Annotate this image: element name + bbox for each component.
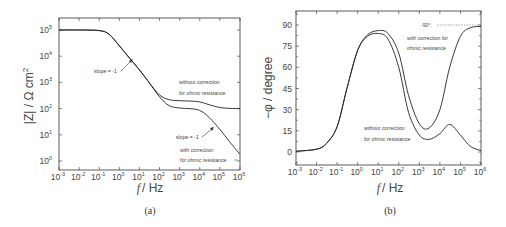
x-tick-label: 10-2 (71, 171, 85, 182)
annotation-with-b-2: ohmic resistance (407, 45, 446, 51)
annotation-without-2: for ohmic resistance (179, 90, 226, 96)
x-tick-label: 104 (193, 171, 206, 182)
x-tick-label: 105 (453, 166, 466, 177)
annotation-slope-1: slope = -1 (94, 68, 117, 74)
x-axis-label-b: f/ Hz (377, 181, 404, 195)
x-tick-label: 103 (412, 166, 425, 177)
chart-a: 105104103102101100 10-310-210-1100101102… (21, 18, 245, 217)
caption-a: (a) (144, 205, 155, 217)
annotation-with-1: with correction (180, 147, 214, 153)
y-tick-label: 45 (283, 84, 293, 94)
x-tick-label: 103 (172, 171, 185, 182)
caption-b: (b) (384, 205, 396, 217)
x-tick-label: 106 (233, 171, 246, 182)
x-axis-ticks-b: 10-310-210-1100101102103104105106 (288, 11, 486, 177)
x-tick-label: 10-3 (288, 166, 302, 177)
x-axis-label-a: f/ Hz (137, 181, 164, 195)
series-with-correction-b (296, 26, 481, 151)
arrowhead-slope-2 (210, 127, 214, 131)
x-tick-label: 10-1 (91, 171, 105, 182)
x-tick-label: 10-1 (329, 166, 343, 177)
x-tick-label: 100 (112, 171, 125, 182)
y-tick-label: 105 (39, 24, 52, 35)
series-without-correction-a (59, 30, 240, 109)
chart-b: 9075604530150 10-310-210-110010110210310… (261, 11, 486, 217)
annotation-with-b-1: with correction for (407, 35, 448, 41)
y-tick-label: 100 (39, 155, 52, 166)
x-tick-label: 104 (433, 166, 446, 177)
series-without-correction-b (296, 33, 481, 151)
x-tick-label: 10-3 (51, 171, 65, 182)
annotation-without-b-1: without correction (364, 125, 405, 131)
x-tick-label: 102 (392, 166, 405, 177)
y-axis-label-a: |Z| / Ω cm2 (21, 67, 36, 124)
svg-text:|Z| / Ω cm2: |Z| / Ω cm2 (21, 67, 36, 124)
y-tick-label: 101 (39, 129, 52, 140)
x-tick-label: 106 (474, 166, 487, 177)
y-tick-label: 75 (283, 41, 293, 51)
figure-canvas: 105104103102101100 10-310-210-1100101102… (0, 0, 506, 227)
annotation-with-2: for ohmic resistance (180, 157, 227, 163)
annotation-minus-90: -90° (421, 22, 431, 28)
svg-text:−φ / degree: −φ / degree (261, 57, 275, 119)
y-tick-label: 90 (283, 20, 293, 30)
x-tick-label: 100 (350, 166, 363, 177)
x-tick-label: 101 (371, 166, 384, 177)
y-tick-label: 103 (39, 76, 52, 87)
x-tick-label: 105 (213, 171, 226, 182)
y-axis-label-b: −φ / degree (261, 57, 275, 119)
x-tick-label: 10-2 (308, 166, 322, 177)
y-tick-label: 0 (287, 147, 292, 157)
annotation-slope-2: slope = -1 (176, 134, 199, 140)
annotation-without-b-2: for ohmic resistance (364, 136, 411, 142)
y-tick-label: 30 (283, 105, 293, 115)
y-tick-label: 60 (283, 62, 293, 72)
y-tick-label: 15 (283, 126, 293, 136)
y-tick-label: 104 (39, 50, 52, 61)
y-tick-label: 102 (39, 103, 52, 114)
annotation-without-1: without correction (179, 79, 220, 85)
